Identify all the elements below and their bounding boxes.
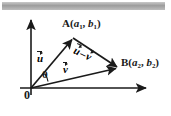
- angle-theta-label: θ: [42, 69, 48, 80]
- point-A-b-index: 1: [94, 23, 97, 30]
- point-B-a: a: [132, 56, 138, 68]
- point-B-a-index: 2: [138, 62, 141, 69]
- point-label-A: A(a1, b1): [62, 18, 101, 29]
- vector-diagram: A(a1, b1) B(a2, b2) 0 θ u v u–v: [0, 0, 171, 116]
- vector-u-overarrow-icon: [37, 51, 42, 52]
- point-B-b-index: 2: [152, 62, 155, 69]
- point-A-close: ): [97, 17, 101, 29]
- vector-u-label: u: [37, 52, 43, 64]
- point-B-close: ): [155, 56, 159, 68]
- vector-uv-second-overarrow-icon: [89, 49, 93, 52]
- vector-v-overarrow-icon: [63, 62, 67, 63]
- point-A-b: b: [88, 17, 94, 29]
- vector-v-glyph: v: [63, 63, 68, 75]
- origin-label: 0: [24, 89, 30, 101]
- vector-v-label: v: [63, 63, 68, 75]
- point-label-B: B(a2, b2): [121, 57, 159, 68]
- vector-u-glyph: u: [37, 52, 43, 64]
- figure-page: A(a1, b1) B(a2, b2) 0 θ u v u–v: [0, 0, 171, 116]
- point-A-a-index: 1: [79, 23, 82, 30]
- point-A-prefix: A: [62, 17, 70, 29]
